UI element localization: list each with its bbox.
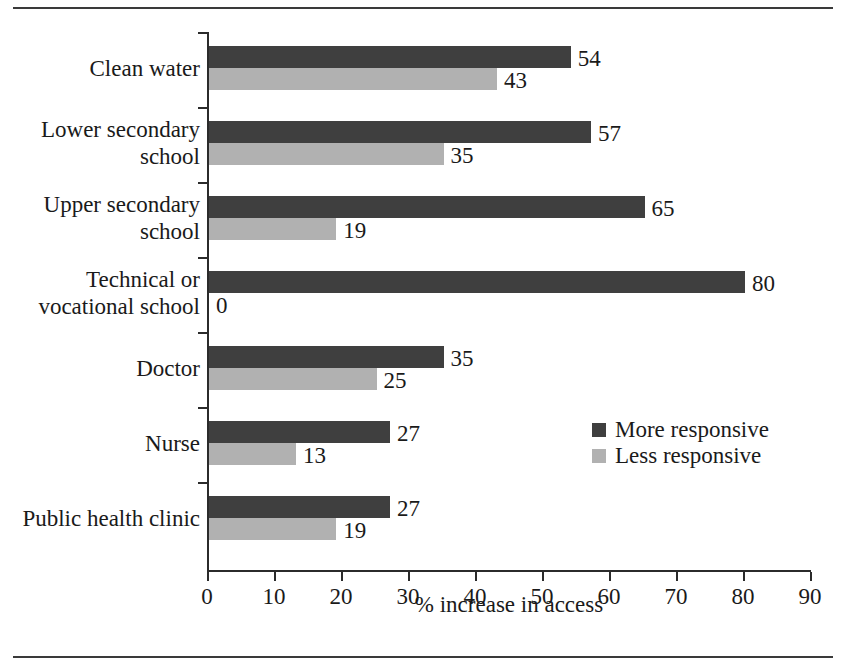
bar-less-responsive (209, 218, 336, 240)
x-axis-tick (408, 572, 410, 581)
bar-value-label: 43 (504, 69, 527, 92)
bottom-divider-rule (13, 656, 833, 658)
y-axis-tick (198, 257, 207, 259)
category-label: Lower secondary school (10, 116, 200, 170)
bar-more-responsive (209, 421, 390, 443)
y-axis-line (207, 32, 209, 570)
category-label: Public health clinic (10, 505, 200, 532)
legend-item-more-responsive: More responsive (592, 417, 769, 443)
bar-value-label: 25 (384, 369, 407, 392)
bar-less-responsive (209, 143, 444, 165)
bar-less-responsive (209, 368, 377, 390)
y-axis-tick (198, 482, 207, 484)
category-label: Nurse (10, 430, 200, 457)
bar-more-responsive (209, 46, 571, 68)
bar-more-responsive (209, 271, 745, 293)
bar-more-responsive (209, 496, 390, 518)
bar-value-label: 19 (343, 219, 366, 242)
x-axis-tick (609, 572, 611, 581)
legend-label-less-responsive: Less responsive (615, 443, 761, 469)
x-axis-tick (810, 572, 812, 581)
bar-value-label: 35 (451, 144, 474, 167)
bar-value-label: 13 (303, 444, 326, 467)
legend-swatch-icon-more-responsive (592, 423, 606, 437)
x-axis-title: % increase in access (207, 592, 811, 618)
top-divider-rule (13, 7, 833, 9)
bar-more-responsive (209, 346, 444, 368)
x-axis-tick (341, 572, 343, 581)
bar-less-responsive (209, 518, 336, 540)
bar-value-label: 65 (652, 197, 675, 220)
x-axis-line (207, 570, 811, 572)
x-axis-tick (743, 572, 745, 581)
category-label: Doctor (10, 355, 200, 382)
x-axis-tick (475, 572, 477, 581)
chart-legend: More responsive Less responsive (592, 417, 769, 469)
bar-value-label: 0 (216, 294, 228, 317)
chart-figure: Clean waterLower secondary schoolUpper s… (0, 0, 846, 669)
bar-value-label: 80 (752, 272, 775, 295)
bar-less-responsive (209, 68, 497, 90)
bar-less-responsive (209, 443, 296, 465)
y-axis-tick (198, 332, 207, 334)
legend-item-less-responsive: Less responsive (592, 443, 769, 469)
x-axis-tick (274, 572, 276, 581)
plot-area: 0102030405060708090 54435735651980035252… (207, 32, 810, 570)
x-axis-tick (676, 572, 678, 581)
bar-value-label: 54 (578, 47, 601, 70)
bar-value-label: 27 (397, 497, 420, 520)
legend-label-more-responsive: More responsive (615, 417, 769, 443)
category-label: Upper secondary school (10, 191, 200, 245)
y-axis-tick (198, 182, 207, 184)
x-axis-tick (207, 572, 209, 581)
bar-more-responsive (209, 196, 645, 218)
bar-value-label: 35 (451, 347, 474, 370)
y-axis-tick (198, 107, 207, 109)
x-axis-tick (542, 572, 544, 581)
bar-value-label: 19 (343, 519, 366, 542)
y-axis-tick (198, 32, 207, 34)
category-label: Technical or vocational school (10, 266, 200, 320)
bar-value-label: 57 (598, 122, 621, 145)
bar-value-label: 27 (397, 422, 420, 445)
bar-more-responsive (209, 121, 591, 143)
y-axis-tick (198, 407, 207, 409)
legend-swatch-icon-less-responsive (592, 449, 606, 463)
category-label: Clean water (10, 55, 200, 82)
